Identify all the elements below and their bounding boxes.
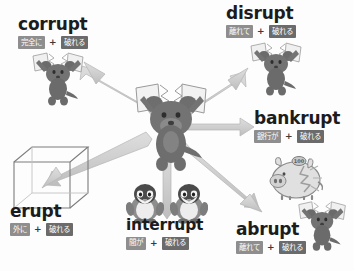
formula-abrupt: 離れて + 破れる bbox=[236, 241, 306, 254]
formula-disrupt: 離れて + 破れる bbox=[226, 25, 296, 38]
node-disrupt[interactable]: disrupt 離れて + 破れる bbox=[226, 5, 296, 38]
formula-bankrupt: 銀行が + 破れる bbox=[254, 130, 340, 143]
node-abrupt[interactable]: abrupt 離れて + 破れる bbox=[236, 221, 306, 254]
formula-erupt: 外に + 破れる bbox=[10, 223, 73, 236]
plus-sign: + bbox=[266, 243, 276, 252]
prefix-chip-corrupt: 完全に bbox=[18, 36, 45, 49]
node-bankrupt[interactable]: bankrupt 銀行が + 破れる bbox=[254, 110, 340, 143]
formula-interrupt: 間が + 破れる bbox=[126, 237, 203, 250]
plus-sign: + bbox=[33, 225, 43, 234]
word-abrupt: abrupt bbox=[236, 221, 306, 238]
node-erupt[interactable]: erupt 外に + 破れる bbox=[10, 203, 73, 236]
plus-sign: + bbox=[149, 239, 159, 248]
node-interrupt[interactable]: interrupt 間が + 破れる bbox=[126, 218, 203, 250]
prefix-chip-erupt: 外に bbox=[10, 223, 30, 236]
prefix-chip-interrupt: 間が bbox=[126, 237, 146, 250]
piggy-coin-label: 100 bbox=[294, 158, 305, 164]
root-chip-corrupt: 破れる bbox=[61, 36, 88, 49]
center-bear-tearing-paper-illustration bbox=[130, 82, 212, 174]
prefix-chip-abrupt: 離れて bbox=[236, 241, 263, 254]
root-chip-interrupt: 破れる bbox=[162, 237, 189, 250]
plus-sign: + bbox=[284, 132, 294, 141]
corrupt-bear-illustration bbox=[30, 52, 88, 106]
root-chip-bankrupt: 破れる bbox=[297, 130, 324, 143]
root-chip-abrupt: 破れる bbox=[279, 241, 306, 254]
word-erupt: erupt bbox=[10, 203, 73, 220]
node-corrupt[interactable]: corrupt 完全に + 破れる bbox=[18, 16, 88, 49]
prefix-chip-bankrupt: 銀行が bbox=[254, 130, 281, 143]
prefix-chip-disrupt: 離れて bbox=[226, 25, 253, 38]
plus-sign: + bbox=[256, 27, 266, 36]
root-chip-erupt: 破れる bbox=[46, 223, 73, 236]
word-corrupt: corrupt bbox=[18, 16, 88, 33]
word-bankrupt: bankrupt bbox=[254, 110, 340, 127]
root-chip-disrupt: 破れる bbox=[269, 25, 296, 38]
formula-corrupt: 完全に + 破れる bbox=[18, 36, 88, 49]
word-disrupt: disrupt bbox=[226, 5, 296, 22]
rupt-word-map: 100 bbox=[0, 0, 354, 271]
disrupt-bear-illustration bbox=[248, 42, 306, 96]
plus-sign: + bbox=[48, 38, 58, 47]
cracked-piggy-bank-illustration: 100 bbox=[266, 152, 328, 200]
word-interrupt: interrupt bbox=[126, 218, 203, 234]
